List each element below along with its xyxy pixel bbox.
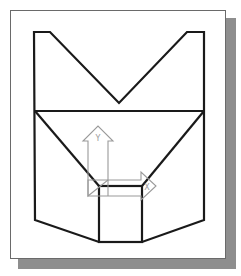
left-diagonal-line bbox=[35, 111, 99, 186]
y-axis-label: Y bbox=[95, 134, 101, 143]
right-diagonal-line bbox=[142, 111, 204, 186]
drawing-canvas: Y X bbox=[0, 0, 241, 276]
center-rectangle bbox=[99, 186, 142, 242]
ucs-icon: Y X bbox=[83, 126, 156, 200]
outer-profile bbox=[34, 32, 204, 242]
x-axis-label: X bbox=[144, 183, 150, 192]
